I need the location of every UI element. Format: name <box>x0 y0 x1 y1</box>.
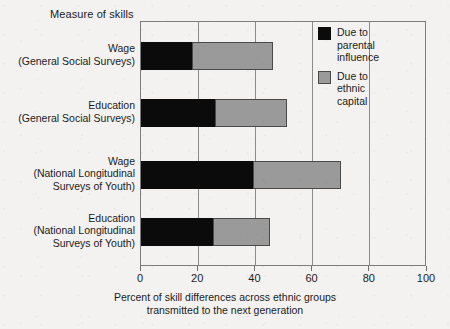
x-axis-tick-label: 40 <box>248 272 260 284</box>
x-axis-tick-label: 0 <box>137 272 143 284</box>
bar-segment-ethnic-capital <box>213 218 270 246</box>
bar-segment-parental-influence <box>141 161 253 189</box>
legend-swatch-parental <box>318 27 331 40</box>
bar-row <box>141 161 341 189</box>
x-axis-tick-label: 20 <box>191 272 203 284</box>
y-axis-label-line: (General Social Surveys) <box>0 55 135 68</box>
bar-segment-parental-influence <box>141 42 192 70</box>
gridline-60 <box>312 22 313 265</box>
y-axis-label-line: Wage <box>0 155 135 168</box>
legend-label-line: Due to <box>337 26 379 39</box>
chart-figure: Measure of skills Wage(General Social Su… <box>0 0 450 329</box>
y-axis-label: Wage(National LongitudinalSurveys of You… <box>0 155 135 193</box>
x-axis-tick-label: 100 <box>417 272 435 284</box>
legend-label-ethnic: Due toethniccapital <box>337 70 368 108</box>
chart-legend: Due toparentalinfluenceDue toethniccapit… <box>318 26 424 113</box>
legend-label-line: parental <box>337 39 379 52</box>
legend-label-line: influence <box>337 51 379 64</box>
bar-segment-parental-influence <box>141 99 215 127</box>
y-axis-label-line: Surveys of Youth) <box>0 180 135 193</box>
legend-entry-parental: Due toparentalinfluence <box>318 26 424 64</box>
x-axis-title: Percent of skill differences across ethn… <box>0 291 450 317</box>
bar-segment-parental-influence <box>141 218 213 246</box>
y-axis-title: Measure of skills <box>50 8 134 20</box>
x-axis-title-line: transmitted to the next generation <box>0 304 450 317</box>
legend-label-line: Due to <box>337 70 368 83</box>
legend-entry-ethnic: Due toethniccapital <box>318 70 424 108</box>
x-axis-tick-label: 80 <box>363 272 375 284</box>
y-axis-label-line: (General Social Surveys) <box>0 112 135 125</box>
x-axis-tick-60 <box>311 266 312 271</box>
x-axis-tick-0 <box>140 266 141 271</box>
bar-segment-ethnic-capital <box>192 42 272 70</box>
y-axis-label-line: Wage <box>0 42 135 55</box>
x-axis-tick-100 <box>426 266 427 271</box>
x-axis-tick-80 <box>368 266 369 271</box>
y-axis-label: Wage(General Social Surveys) <box>0 42 135 67</box>
legend-label-line: ethnic <box>337 82 368 95</box>
bar-row <box>141 42 273 70</box>
x-axis-tick-20 <box>197 266 198 271</box>
legend-swatch-ethnic <box>318 71 331 84</box>
y-axis-label: Education(General Social Surveys) <box>0 99 135 124</box>
bar-row <box>141 218 270 246</box>
y-axis-label-line: Education <box>0 99 135 112</box>
bar-segment-ethnic-capital <box>253 161 342 189</box>
bar-segment-ethnic-capital <box>215 99 287 127</box>
y-axis-label-line: Surveys of Youth) <box>0 237 135 250</box>
y-axis-label: Education(National LongitudinalSurveys o… <box>0 212 135 250</box>
legend-label-line: capital <box>337 95 368 108</box>
x-axis-tick-40 <box>254 266 255 271</box>
y-axis-label-line: (National Longitudinal <box>0 224 135 237</box>
y-axis-label-line: (National Longitudinal <box>0 167 135 180</box>
legend-label-parental: Due toparentalinfluence <box>337 26 379 64</box>
x-axis-title-line: Percent of skill differences across ethn… <box>0 291 450 304</box>
x-axis-tick-label: 60 <box>305 272 317 284</box>
bar-row <box>141 99 287 127</box>
y-axis-label-line: Education <box>0 212 135 225</box>
